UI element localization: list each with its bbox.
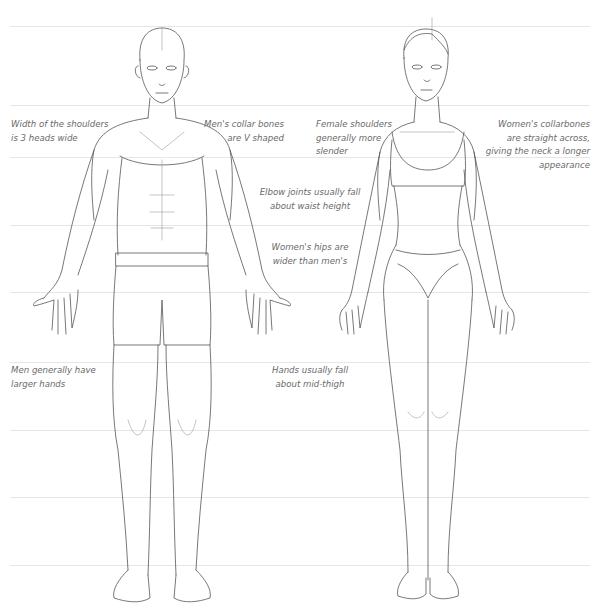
annotation-female-collarbones: Women's collarbones are straight across,… — [470, 118, 590, 172]
annotation-hand-position: Hands usually fall about mid-thigh — [245, 364, 375, 391]
anatomy-proportion-diagram: Width of the shoulders is 3 heads wide M… — [0, 0, 602, 612]
annotation-shoulder-width: Width of the shoulders is 3 heads wide — [11, 118, 109, 145]
annotation-male-collarbones: Men's collar bones are V shaped — [196, 118, 284, 145]
female-figure-illustration — [0, 0, 602, 612]
annotation-male-hands: Men generally have larger hands — [11, 364, 96, 391]
annotation-elbow-joints: Elbow joints usually fall about waist he… — [240, 186, 380, 213]
annotation-female-hips: Women's hips are wider than men's — [245, 241, 375, 268]
annotation-female-shoulders: Female shoulders generally more slender — [316, 118, 392, 159]
